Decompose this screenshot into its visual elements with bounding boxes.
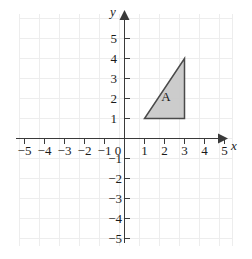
coordinate-plane-figure: A −5 −4 −3 −2 −1 1 2 3 4 5 5 4 3 2 1 −1 … [0, 0, 252, 259]
y-tick-label: 2 [111, 91, 118, 106]
y-tick-label: −3 [108, 191, 122, 206]
x-tick-label: −3 [58, 143, 72, 158]
coordinate-plane-svg: A −5 −4 −3 −2 −1 1 2 3 4 5 5 4 3 2 1 −1 … [0, 0, 252, 259]
x-axis-arrow-icon [218, 134, 228, 144]
x-tick-label: 2 [161, 143, 168, 158]
x-axis-label: x [230, 138, 237, 153]
x-tick-label: −5 [18, 143, 32, 158]
x-tick-label: 1 [141, 143, 148, 158]
y-tick-label: −5 [108, 231, 122, 246]
y-tick-label: 3 [111, 71, 118, 86]
origin-label: 0 [115, 143, 122, 158]
x-tick-label: 4 [201, 143, 208, 158]
x-tick-label: −2 [78, 143, 92, 158]
axes [16, 10, 228, 243]
y-tick-label: −2 [108, 171, 122, 186]
x-tick-label: 5 [221, 143, 228, 158]
y-tick-label: 1 [111, 111, 118, 126]
shape-label-a: A [161, 89, 171, 104]
y-axis-label: y [108, 4, 116, 19]
y-tick-label: 4 [111, 51, 118, 66]
y-axis-arrow-icon [120, 10, 130, 20]
y-tick-label: −4 [108, 211, 122, 226]
y-tick-label: 5 [111, 31, 118, 46]
x-axis-tick-labels: −5 −4 −3 −2 −1 1 2 3 4 5 [18, 143, 228, 158]
x-tick-label: 3 [181, 143, 188, 158]
grid-lines [20, 14, 233, 246]
x-tick-label: −4 [38, 143, 52, 158]
